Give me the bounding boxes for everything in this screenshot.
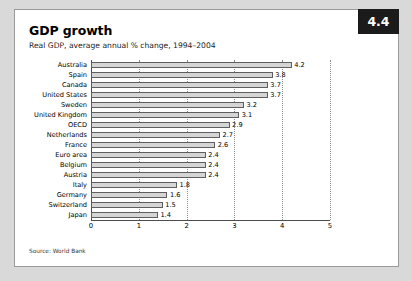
category-label: OECD — [68, 122, 87, 129]
bar — [91, 182, 177, 188]
bar — [91, 122, 230, 128]
category-label: Spain — [69, 72, 87, 79]
chart-subtitle: Real GDP, average annual % change, 1994–… — [29, 41, 216, 50]
category-axis-labels: AustraliaSpainCanadaUnited StatesSwedenU… — [29, 60, 90, 220]
bar — [91, 142, 215, 148]
bar — [91, 102, 244, 108]
bar-value-label: 2.9 — [232, 122, 243, 129]
bar — [91, 112, 239, 118]
bar — [91, 192, 167, 198]
bar — [91, 92, 268, 98]
category-label: Belgium — [60, 162, 87, 169]
page-background: 4.4 GDP growth Real GDP, average annual … — [0, 0, 412, 281]
bar-value-label: 2.4 — [208, 172, 219, 179]
bar-value-label: 3.2 — [246, 102, 257, 109]
category-label: Australia — [58, 62, 87, 69]
category-label: Sweden — [61, 102, 87, 109]
bar — [91, 132, 220, 138]
bar-value-label: 1.4 — [160, 212, 171, 219]
bar — [91, 152, 206, 158]
chart-number-badge: 4.4 — [358, 9, 399, 34]
gridline — [330, 60, 331, 220]
source-note: Source: World Bank — [29, 248, 86, 254]
bar-value-label: 1.8 — [180, 182, 191, 189]
category-label: Canada — [62, 82, 87, 89]
category-label: Japan — [69, 212, 87, 219]
bar — [91, 212, 158, 218]
bar-value-label: 4.2 — [294, 62, 305, 69]
value-axis-tick-label: 3 — [232, 223, 236, 230]
bar-value-label: 1.5 — [165, 202, 176, 209]
bar-value-label: 1.6 — [170, 192, 181, 199]
category-label: Euro area — [55, 152, 87, 159]
category-label: United Kingdom — [34, 112, 87, 119]
bar-value-label: 2.4 — [208, 152, 219, 159]
chart-title: GDP growth — [29, 23, 112, 38]
bar — [91, 82, 268, 88]
value-axis-tick-label: 0 — [89, 223, 93, 230]
value-axis-line — [91, 220, 330, 221]
gridline — [282, 60, 283, 220]
chart-number-badge-label: 4.4 — [367, 14, 389, 29]
category-label: Switzerland — [49, 202, 87, 209]
chart-card: 4.4 GDP growth Real GDP, average annual … — [14, 9, 399, 267]
bar — [91, 72, 273, 78]
bar-value-label: 2.4 — [208, 162, 219, 169]
value-axis-tick-label: 2 — [184, 223, 188, 230]
bar — [91, 202, 163, 208]
category-label: United States — [42, 92, 87, 99]
category-label: Germany — [57, 192, 87, 199]
bar-value-label: 3.7 — [270, 92, 281, 99]
category-label: France — [65, 142, 87, 149]
bar — [91, 162, 206, 168]
bar — [91, 62, 292, 68]
value-axis-tick-label: 5 — [328, 223, 332, 230]
category-label: Austria — [64, 172, 87, 179]
bar-value-label: 3.8 — [275, 72, 286, 79]
category-label: Italy — [73, 182, 87, 189]
bar-value-label: 2.6 — [218, 142, 229, 149]
bar-value-label: 3.7 — [270, 82, 281, 89]
value-axis-tick-label: 1 — [137, 223, 141, 230]
chart-plot-area: AustraliaSpainCanadaUnited StatesSwedenU… — [29, 60, 386, 235]
bar — [91, 172, 206, 178]
bars-container: 4.23.83.73.73.23.12.92.72.62.42.42.41.81… — [91, 60, 330, 220]
bar-value-label: 3.1 — [242, 112, 253, 119]
bar-value-label: 2.7 — [223, 132, 234, 139]
value-axis-tick-label: 4 — [280, 223, 284, 230]
category-label: Netherlands — [47, 132, 87, 139]
